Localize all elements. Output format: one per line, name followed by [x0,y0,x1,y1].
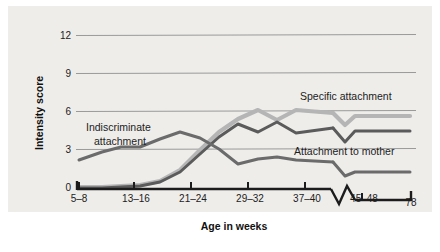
attachment-intensity-line-chart: 12 9 6 3 0 Intensity score [0,0,440,252]
gridline-9 [76,73,416,74]
series-line-specific-attachment-post-break [333,113,410,125]
series-label-attachment-to-mother: Attachment to mother [294,145,395,157]
x-tick-label-1: 5–8 [71,193,88,204]
x-tick-label-7: 78 [405,197,417,208]
series-label-indiscriminate-attachment-line1: Indiscriminate [86,121,151,133]
x-tick-label-2: 13–16 [122,193,150,204]
series-line-indiscriminate-attachment-post-break [333,162,410,176]
series-label-indiscriminate-attachment-line2: attachment [94,135,146,147]
y-axis-tick-labels: 12 9 6 3 0 [60,30,72,193]
gridline-12 [76,35,416,36]
x-tick-label-4: 29–32 [236,193,264,204]
y-axis-title: Intensity score [33,76,45,150]
x-tick-label-3: 21–24 [179,193,207,204]
x-tick-label-5: 37–40 [293,193,321,204]
x-axis-title: Age in weeks [201,220,268,232]
y-tick-label-0: 0 [65,182,71,193]
y-tick-label-12: 12 [60,30,72,41]
gridline-6 [76,111,416,112]
x-tick-label-6: 45–48 [350,193,378,204]
series-line-attachment-to-mother-post-break [333,128,410,142]
chart-screenshot: 12 9 6 3 0 Intensity score [0,0,440,252]
x-axis-tick-labels: 5–8 13–16 21–24 29–32 37–40 45–48 78 [71,193,417,208]
y-tick-label-3: 3 [65,144,71,155]
y-tick-label-9: 9 [65,68,71,79]
y-tick-label-6: 6 [65,106,71,117]
series-label-specific-attachment: Specific attachment [300,90,392,102]
